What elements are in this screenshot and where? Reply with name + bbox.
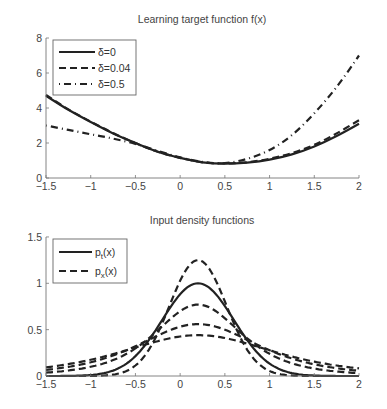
x-tick-label: 1	[267, 180, 273, 192]
bottom-legend: pt(x) px(x)	[53, 239, 127, 283]
x-tick-label: 1	[267, 378, 273, 390]
y-tick-label: 6	[36, 67, 42, 79]
x-tick-label: 1.5	[307, 378, 322, 390]
x-tick-label: 0.5	[218, 180, 233, 192]
y-tick-label: 8	[36, 32, 42, 44]
top-plot: Learning target function f(x) −1.5−1−0.5…	[36, 13, 362, 192]
x-tick-label: −1	[85, 180, 97, 192]
legend-label-delta-0: δ=0	[98, 46, 116, 58]
y-tick-label: 0.5	[27, 324, 42, 336]
curve-dashed	[46, 95, 359, 164]
legend-label-delta-004: δ=0.04	[98, 62, 131, 74]
y-tick-label: 0	[36, 172, 42, 184]
bottom-plot-title: Input density functions	[150, 214, 254, 226]
x-tick-label: 1.5	[307, 180, 322, 192]
y-tick-label: 2	[36, 137, 42, 149]
x-tick-label: 2	[356, 378, 362, 390]
figure: Learning target function f(x) −1.5−1−0.5…	[0, 0, 387, 409]
x-tick-label: 0	[177, 378, 183, 390]
bottom-plot: Input density functions −1.5−1−0.500.511…	[27, 214, 362, 390]
curve-solid	[46, 96, 359, 164]
x-tick-label: −1	[85, 378, 97, 390]
density-curve-dashed	[46, 324, 359, 371]
y-tick-label: 1.5	[27, 231, 42, 243]
y-tick-label: 4	[36, 102, 42, 114]
y-tick-label: 1	[36, 277, 42, 289]
x-tick-label: −0.5	[125, 378, 146, 390]
legend-label-delta-05: δ=0.5	[98, 78, 125, 90]
x-tick-label: 2	[356, 180, 362, 192]
y-tick-label: 0	[36, 370, 42, 382]
x-tick-label: −0.5	[125, 180, 146, 192]
top-plot-title: Learning target function f(x)	[138, 13, 266, 25]
x-tick-label: 0.5	[218, 378, 233, 390]
top-legend: δ=0 δ=0.04 δ=0.5	[53, 40, 136, 95]
x-tick-label: 0	[177, 180, 183, 192]
